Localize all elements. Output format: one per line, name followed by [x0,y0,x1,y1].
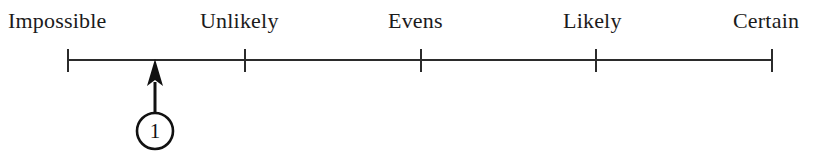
axis-label-certain: Certain [733,10,799,32]
marker-arrow-head [147,59,163,86]
axis-label-unlikely: Unlikely [200,10,279,32]
probability-scale-figure: Impossible Unlikely Evens Likely Certain… [0,0,821,153]
axis-label-impossible: Impossible [8,10,107,32]
marker-number-label: 1 [140,121,170,142]
axis-label-likely: Likely [563,10,622,32]
axis-label-evens: Evens [388,10,443,32]
